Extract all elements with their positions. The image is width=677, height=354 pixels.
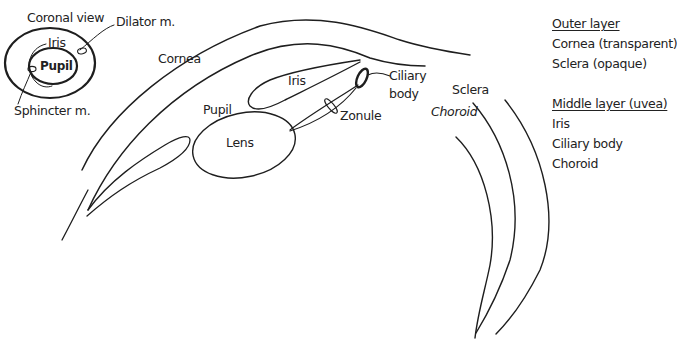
legend-item: Ciliary body [552,134,667,154]
pupil-label: Pupil [203,104,232,117]
inset-pupil-label: Pupil [40,60,73,72]
dilator-leader-line [80,25,114,50]
zonule-label: Zonule [340,110,381,123]
inset-iris-label: Iris [48,37,66,50]
cornea-label: Cornea [158,53,201,66]
cornea-band [62,20,470,240]
dilator-label: Dilator m. [116,16,175,29]
legend-item: Cornea (transparent) [552,34,677,54]
legend-item: Iris [552,114,667,134]
cornea-inner-lower-line [62,190,88,240]
cornea-inner-line [88,44,425,210]
choroid-label: Choroid [431,106,477,119]
inset-title-label: Coronal view [27,12,104,25]
iris-label: Iris [288,75,306,88]
ciliary-leader-line [368,73,390,76]
lens-label: Lens [226,137,254,150]
legend-header-middle: Middle layer (uvea) [552,94,667,114]
legend-header-outer: Outer layer [552,14,677,34]
sclera-outer-line [496,100,549,334]
legend-item: Choroid [552,154,667,174]
lower-iris-shape [87,137,190,216]
sclera-label: Sclera [452,84,489,97]
legend-middle-layer: Middle layer (uvea) Iris Ciliary body Ch… [552,94,667,174]
sphincter-label: Sphincter m. [14,105,90,118]
sclera-inner-line [473,103,515,333]
ciliary-body-label-line1: Ciliary [389,70,426,83]
legend-item: Sclera (opaque) [552,54,677,74]
choroid-line [456,137,492,338]
ciliary-body-label-line2: body [389,88,419,101]
legend-outer-layer: Outer layer Cornea (transparent) Sclera … [552,14,677,74]
